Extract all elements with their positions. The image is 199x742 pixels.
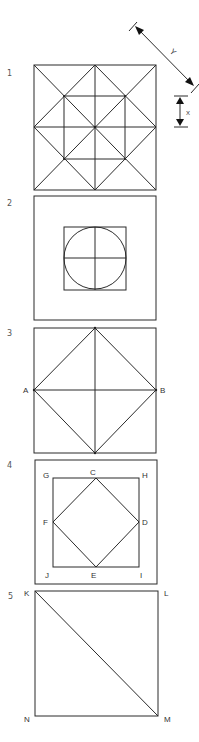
figure-1-node	[124, 95, 126, 97]
figure-5: 5 K L N M	[8, 589, 171, 724]
label-j: J	[45, 571, 49, 580]
dimension-y-label: Y	[168, 47, 179, 58]
label-e: E	[91, 571, 96, 580]
label-b: B	[160, 386, 165, 395]
arrowhead-icon	[176, 119, 184, 126]
label-l: L	[164, 589, 169, 598]
figure-3-node	[94, 327, 96, 329]
label-d: D	[142, 518, 148, 527]
geometry-diagram-sheet: 1 Y X 2 3	[0, 0, 199, 742]
label-g: G	[43, 471, 49, 480]
figure-2: 2	[7, 196, 156, 320]
figure-5-number: 5	[8, 592, 13, 601]
point-a	[33, 389, 35, 391]
figure-1-center-point	[94, 126, 97, 129]
figure-4: 4 G C H F D J E I	[7, 460, 157, 584]
figure-1-node	[63, 95, 65, 97]
figure-3-node	[94, 452, 96, 454]
label-k: K	[24, 589, 30, 598]
label-c: C	[90, 468, 96, 477]
arrowhead-icon	[176, 97, 184, 104]
label-i: I	[140, 571, 142, 580]
figure-3-number: 3	[7, 329, 12, 338]
figure-4-number: 4	[7, 461, 12, 470]
dimension-y-tick-bottom	[191, 84, 199, 93]
label-a: A	[23, 386, 29, 395]
dimension-x: X	[174, 96, 190, 127]
label-f: F	[43, 518, 48, 527]
figure-1: 1	[7, 65, 156, 190]
figure-4-inner-square-ghij	[53, 478, 139, 567]
label-h: H	[142, 471, 148, 480]
figure-1-number: 1	[7, 69, 12, 78]
figure-1-node	[63, 158, 65, 160]
label-n: N	[24, 715, 30, 724]
figure-2-number: 2	[7, 199, 12, 208]
dimension-x-label: X	[186, 110, 190, 116]
figure-3: 3 A B	[7, 327, 165, 454]
figure-4-diamond-cdef	[53, 478, 139, 567]
figure-1-node	[124, 158, 126, 160]
point-b	[155, 389, 157, 391]
figure-5-diagonal-km	[35, 591, 158, 716]
label-m: M	[164, 715, 171, 724]
